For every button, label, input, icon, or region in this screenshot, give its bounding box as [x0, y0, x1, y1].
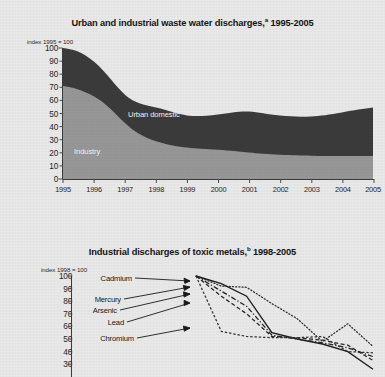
chart2-line-chromium: [196, 276, 373, 353]
chart1-y-ticks: [59, 48, 63, 179]
chart2-label-arsenic: Arsenic: [26, 306, 117, 315]
chart1-plot-area: 100 90 80 70 60 50 40 30 20 10 0: [0, 46, 385, 196]
chart1-svg: [0, 46, 385, 196]
chart1-label-urban-domestic: Urban domestic: [128, 110, 180, 119]
chart1-xtick-1996: 1996: [86, 185, 102, 194]
chart1-xtick-2004: 2004: [335, 185, 351, 194]
chart1-xtick-2005: 2005: [365, 185, 381, 194]
chart2-label-lead: Lead: [36, 318, 124, 327]
figure-page: Urban and industrial waste water dischar…: [0, 0, 385, 377]
chart2-label-mercury: Mercury: [28, 295, 121, 304]
chart1-title-footnote: a: [265, 16, 268, 23]
chart1-xtick-1999: 1999: [180, 185, 196, 194]
chart1-xtick-1998: 1998: [148, 185, 164, 194]
chart2-plot-area: 100 90 80 70 60 50 40 30: [0, 273, 385, 377]
chart2-title-years: 1998-2005: [253, 247, 296, 257]
chart1-xtick-2002: 2002: [273, 185, 289, 194]
chart1-xtick-1995: 1995: [55, 185, 71, 194]
chart1-title: Urban and industrial waste water dischar…: [0, 18, 385, 28]
chart2-title-footnote: b: [247, 245, 251, 252]
chart1-xtick-1997: 1997: [117, 185, 133, 194]
chart1-xtick-2003: 2003: [304, 185, 320, 194]
chart1-xtick-2000: 2000: [211, 185, 227, 194]
chart1-label-industry: Industry: [74, 147, 100, 156]
chart2-title: Industrial discharges of toxic metals,b …: [0, 247, 385, 257]
chart2-title-main: Industrial discharges of toxic metals,: [89, 247, 247, 257]
chart2-label-cadmium: Cadmium: [38, 274, 132, 283]
chart2-line-mercury: [196, 276, 373, 369]
chart2-leader-lines: [120, 278, 190, 338]
chart1-title-main: Urban and industrial waste water dischar…: [71, 18, 264, 28]
chart2-line-arsenic: [196, 276, 373, 357]
chart1-title-years: 1995-2005: [270, 18, 313, 28]
chart2-label-chromium: Chromium: [30, 334, 134, 343]
chart1-xtick-2001: 2001: [242, 185, 258, 194]
